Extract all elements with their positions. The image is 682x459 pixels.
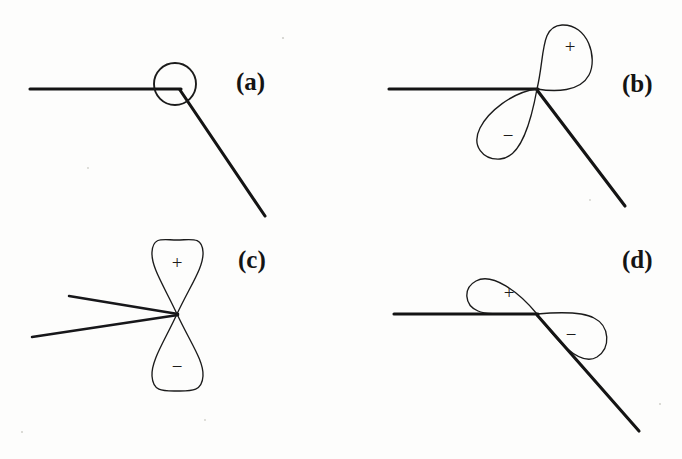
- panel-d-negative-sign: −: [566, 324, 577, 345]
- panel-d-positive-sign: +: [504, 282, 515, 303]
- panel-c: + − (c): [32, 240, 266, 391]
- panel-d-p-orbital-positive-lobe: [467, 279, 537, 314]
- panel-c-lower-bond: [32, 315, 178, 337]
- panel-b: + − (b): [389, 25, 653, 206]
- panel-b-label: (b): [622, 70, 653, 98]
- panel-a-diagonal-bond: [180, 90, 265, 216]
- speck: [21, 431, 23, 433]
- panel-c-upper-bond: [69, 296, 178, 314]
- panel-c-negative-sign: −: [172, 356, 183, 377]
- speck: [589, 199, 591, 201]
- speck: [87, 167, 89, 169]
- speck: [659, 403, 661, 405]
- panel-c-label: (c): [238, 246, 266, 274]
- panel-d-diagonal-bond: [537, 315, 639, 431]
- figure-canvas: (a) + − (b) + − (c): [0, 0, 682, 459]
- panel-b-positive-sign: +: [565, 36, 576, 57]
- panel-c-p-orbital-negative-lobe: [152, 314, 203, 391]
- panel-d-label: (d): [622, 246, 653, 274]
- panel-d: + − (d): [394, 246, 653, 431]
- panel-a-s-orbital-icon: [154, 63, 196, 105]
- orbital-figure: (a) + − (b) + − (c): [0, 0, 682, 459]
- panel-a-label: (a): [236, 68, 265, 96]
- panel-b-diagonal-bond: [537, 90, 625, 206]
- scan-specks: [21, 37, 661, 433]
- panel-c-positive-sign: +: [172, 252, 183, 273]
- panel-a: (a): [30, 63, 265, 216]
- speck: [204, 419, 206, 421]
- speck: [282, 37, 284, 39]
- panel-b-negative-sign: −: [503, 125, 514, 146]
